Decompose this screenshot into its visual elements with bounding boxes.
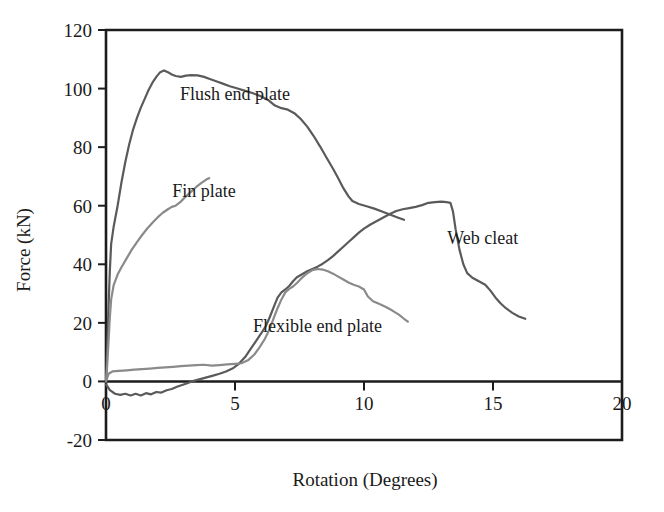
y-tick-label-40: 40 [73, 254, 92, 275]
y-axis-title: Force (kN) [13, 208, 35, 292]
x-tick-label-0: 0 [101, 393, 111, 414]
x-tick-label-20: 20 [613, 393, 632, 414]
series-label-flush-end-plate: Flush end plate [180, 84, 290, 104]
y-tick-label-100: 100 [64, 79, 93, 100]
y-tick-label-0: 0 [83, 371, 93, 392]
chart-container: -20020406080100120 05101520 Flush end pl… [0, 0, 664, 512]
x-axis-ticks [106, 381, 622, 390]
y-tick-label-120: 120 [64, 20, 93, 41]
x-axis-title: Rotation (Degrees) [292, 469, 437, 491]
x-tick-label-10: 10 [355, 393, 374, 414]
x-tick-label-5: 5 [230, 393, 240, 414]
y-tick-label--20: -20 [67, 430, 92, 451]
force-rotation-chart: -20020406080100120 05101520 Flush end pl… [0, 0, 664, 512]
curve-fin-plate [106, 178, 209, 381]
series-label-flexible-end-plate: Flexible end plate [253, 316, 382, 336]
y-tick-label-80: 80 [73, 137, 92, 158]
x-axis-tick-labels: 05101520 [101, 393, 631, 414]
y-tick-label-60: 60 [73, 196, 92, 217]
series-label-web-cleat: Web cleat [447, 228, 518, 248]
series-annotations-group: Flush end plateFin plateWeb cleatFlexibl… [172, 84, 518, 335]
series-label-fin-plate: Fin plate [172, 181, 236, 201]
y-axis-tick-labels: -20020406080100120 [64, 20, 93, 451]
x-tick-label-15: 15 [484, 393, 503, 414]
y-tick-label-20: 20 [73, 313, 92, 334]
